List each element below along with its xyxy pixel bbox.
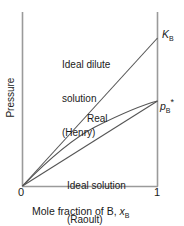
pb-star: *: [171, 97, 175, 107]
annotation-real: Real: [87, 113, 108, 124]
annotation-ideal-solution-raoult: Ideal solution (Raoult): [67, 158, 126, 226]
annotation-raoult-line-1: Ideal solution: [67, 180, 126, 191]
pb-subscript: B: [166, 107, 171, 114]
annotation-vapour-pressure-pb: pB*: [160, 97, 174, 114]
annotation-henry-constant-kb: KB: [162, 29, 174, 43]
x-tick-label-1: 1: [154, 186, 160, 198]
annotation-henry-line-1: Ideal dilute: [62, 59, 110, 70]
y-axis-label: Pressure: [5, 66, 16, 130]
kb-symbol: K: [162, 28, 169, 40]
annotation-ideal-dilute-henry: Ideal dilute solution (Henry): [62, 37, 110, 160]
annotation-henry-line-3: (Henry): [62, 127, 110, 138]
kb-subscript: B: [169, 35, 174, 42]
pressure-composition-chart: Pressure Mole fraction of B, xB 0 1 Idea…: [0, 0, 184, 226]
annotation-raoult-line-2: (Raoult): [67, 214, 126, 225]
annotation-henry-line-2: solution: [62, 93, 110, 104]
x-tick-label-0: 0: [18, 186, 24, 198]
